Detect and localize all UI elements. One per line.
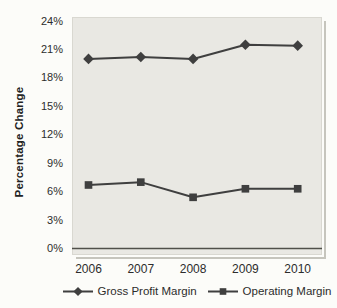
x-tick-label: 2010: [276, 262, 320, 276]
y-tick-label: 21%: [0, 43, 63, 56]
diamond-marker: [73, 286, 82, 295]
y-tick-label: 9%: [0, 157, 63, 170]
diamond-marker: [83, 54, 94, 65]
x-tick-label: 2008: [171, 262, 215, 276]
diamond-marker: [188, 54, 199, 65]
diamond-marker: [240, 39, 251, 50]
legend-item: Gross Profit Margin: [63, 285, 197, 297]
legend-label: Operating Margin: [243, 285, 332, 297]
square-marker: [85, 181, 93, 189]
y-tick-label: 15%: [0, 100, 63, 113]
x-tick-label: 2009: [223, 262, 267, 276]
series-plot: [72, 17, 322, 255]
legend-item: Operating Margin: [208, 285, 332, 297]
plot-area: [72, 17, 322, 255]
y-tick-label: 6%: [0, 185, 63, 198]
y-tick-label: 0%: [0, 242, 63, 255]
legend-marker-diamond: [63, 286, 93, 297]
legend: Gross Profit MarginOperating Margin: [72, 283, 322, 299]
y-tick-label: 18%: [0, 71, 63, 84]
square-marker: [294, 185, 302, 193]
diamond-marker: [292, 40, 303, 51]
x-tick-label: 2006: [67, 262, 111, 276]
line-chart-figure: Percentage Change 0%3%6%9%12%15%18%21%24…: [0, 0, 337, 308]
legend-marker-square: [208, 286, 238, 297]
diamond-marker: [136, 52, 147, 63]
square-marker: [189, 193, 197, 201]
y-tick-label: 24%: [0, 15, 63, 28]
square-marker: [137, 178, 145, 186]
y-tick-label: 12%: [0, 128, 63, 141]
square-marker: [219, 288, 226, 295]
square-marker: [242, 185, 250, 193]
legend-label: Gross Profit Margin: [98, 285, 197, 297]
y-tick-label: 3%: [0, 214, 63, 227]
x-tick-label: 2007: [119, 262, 163, 276]
